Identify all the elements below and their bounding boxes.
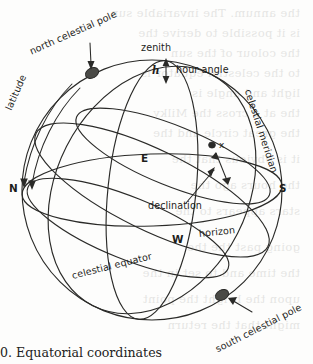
label-east: E	[141, 152, 148, 164]
scp-arrowhead	[228, 297, 237, 305]
latitude-arrowhead-1	[20, 179, 28, 189]
hour-angle-arrowhead-top	[163, 58, 170, 66]
hour-angle-arrowhead-bottom	[163, 76, 170, 84]
star-marker	[209, 142, 216, 148]
hour-circle	[7, 31, 296, 350]
label-north: N	[9, 182, 18, 194]
label-zenith: zenith	[141, 42, 171, 53]
celestial-sphere-diagram	[0, 0, 313, 364]
label-hour-angle: hour angle	[176, 64, 229, 75]
label-west: W	[172, 233, 184, 245]
label-star: x	[219, 140, 224, 150]
label-declination: declination	[148, 200, 202, 211]
celestial-meridian-circle	[95, 56, 210, 324]
celestial-equator-circle	[19, 97, 286, 282]
south-celestial-pole-marker	[213, 287, 230, 302]
label-south: S	[279, 182, 287, 194]
sphere-outline	[22, 60, 282, 320]
ncp-leader-line	[90, 43, 91, 64]
label-hour-angle-symbol: h	[152, 64, 160, 76]
figure-page: the annum. The invariable sun is it poss…	[0, 0, 313, 364]
figure-caption: 0. Equatorial coordinates	[0, 345, 162, 360]
